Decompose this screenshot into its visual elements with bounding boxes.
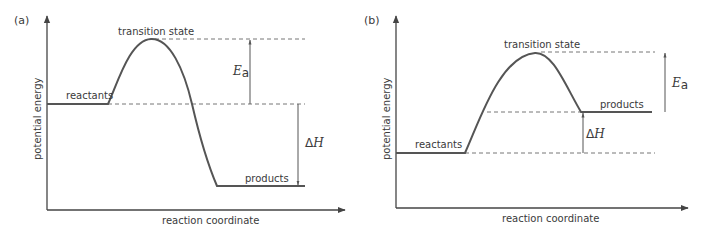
panel-b: (b) potential energy reaction coordinate…	[364, 14, 688, 224]
energy-curve	[47, 39, 305, 186]
panel-a-label: (a)	[14, 14, 29, 27]
enthalpy-change-label: ΔH	[586, 127, 605, 141]
products-label: products	[600, 99, 644, 110]
y-axis-label: potential energy	[32, 77, 43, 160]
panel-b-label: (b)	[364, 14, 380, 27]
enthalpy-change-label: ΔH	[305, 136, 324, 150]
reactants-label: reactants	[415, 139, 462, 150]
products-label: products	[245, 173, 289, 184]
reactants-label: reactants	[66, 90, 113, 101]
transition-state-label: transition state	[504, 39, 580, 50]
x-axis-label: reaction coordinate	[502, 213, 599, 224]
panel-a: (a) potential energy reaction coordinate…	[14, 14, 345, 226]
transition-state-label: transition state	[118, 26, 194, 37]
x-axis-label: reaction coordinate	[162, 215, 259, 226]
energy-diagrams: (a) potential energy reaction coordinate…	[0, 0, 704, 235]
y-axis-label: potential energy	[381, 77, 392, 160]
activation-energy-label: Ea	[671, 76, 688, 92]
activation-energy-label: Ea	[232, 64, 249, 80]
